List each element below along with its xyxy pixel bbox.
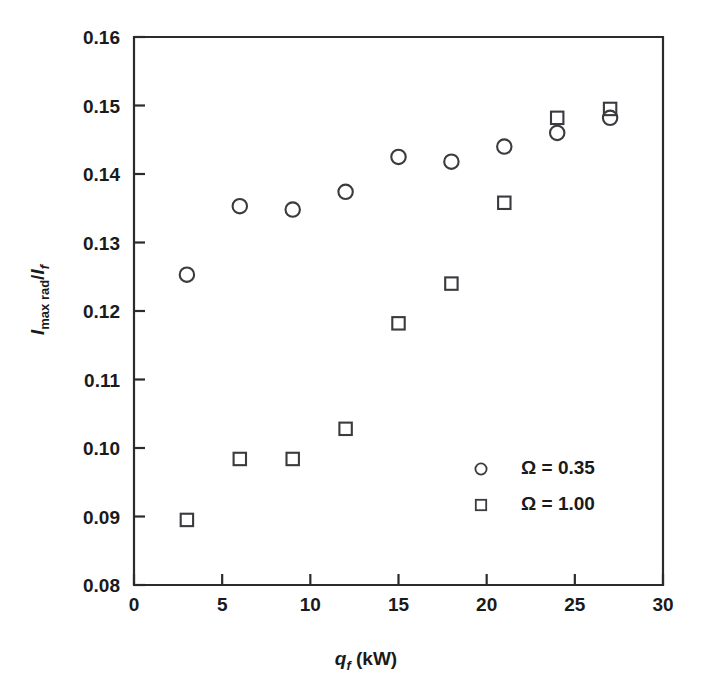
data-point-square	[551, 112, 563, 124]
x-tick-label: 0	[129, 594, 140, 615]
data-point-square	[498, 197, 510, 209]
y-tick-label: 0.13	[83, 233, 120, 254]
data-point-circle	[550, 126, 564, 140]
data-point-circle	[286, 202, 300, 216]
y-tick-label: 0.16	[83, 27, 120, 48]
x-axis-tick-labels: 051015202530	[129, 594, 674, 615]
y-tick-label: 0.14	[83, 164, 120, 185]
x-tick-label: 15	[388, 594, 410, 615]
data-point-square	[287, 453, 299, 465]
plot-canvas: 051015202530 0.080.090.100.110.120.130.1…	[0, 0, 702, 693]
y-tick-label: 0.11	[84, 370, 120, 391]
x-axis-title: qf (kW)	[335, 648, 397, 673]
legend-label: Ω = 0.35	[521, 457, 595, 478]
y-tick-label: 0.10	[83, 438, 120, 459]
x-tick-label: 10	[300, 594, 321, 615]
data-point-circle	[603, 111, 617, 125]
x-tick-label: 20	[476, 594, 497, 615]
data-point-square	[445, 277, 457, 289]
data-point-circle	[497, 139, 511, 153]
data-point-circle	[180, 267, 194, 281]
x-tick-label: 30	[652, 594, 673, 615]
series-omega-035-points	[180, 111, 618, 282]
x-axis-ticks	[134, 574, 663, 585]
x-tick-label: 5	[217, 594, 228, 615]
data-point-circle	[391, 150, 405, 164]
data-point-circle	[233, 199, 247, 213]
data-point-square	[234, 453, 246, 465]
y-tick-label: 0.09	[83, 507, 120, 528]
chart-legend: Ω = 0.35Ω = 1.00	[475, 457, 595, 514]
y-tick-label: 0.08	[83, 575, 120, 596]
data-point-square	[339, 423, 351, 435]
data-point-circle	[444, 154, 458, 168]
data-point-square	[181, 514, 193, 526]
legend-marker-square	[476, 500, 486, 510]
y-axis-title: Imax rad/If	[27, 263, 52, 335]
data-point-circle	[338, 185, 352, 199]
scatter-chart-figure: 051015202530 0.080.090.100.110.120.130.1…	[0, 0, 702, 693]
y-axis-tick-labels: 0.080.090.100.110.120.130.140.150.16	[83, 27, 120, 596]
y-axis-ticks	[134, 37, 145, 585]
legend-label: Ω = 1.00	[521, 493, 595, 514]
y-tick-label: 0.12	[83, 301, 120, 322]
y-tick-label: 0.15	[83, 96, 120, 117]
data-point-square	[392, 317, 404, 329]
legend-marker-circle	[475, 463, 486, 474]
x-tick-label: 25	[564, 594, 586, 615]
